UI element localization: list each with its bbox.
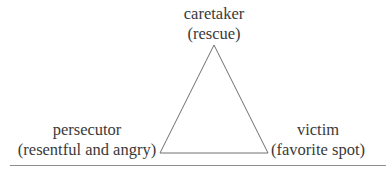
node-caretaker: caretaker (rescue) (154, 4, 274, 44)
node-persecutor-sublabel: (resentful and angry) (7, 140, 167, 160)
node-victim: victim (favorite spot) (266, 120, 370, 160)
node-victim-sublabel: (favorite spot) (266, 140, 370, 160)
node-caretaker-label: caretaker (154, 4, 274, 24)
triangle-outline (160, 45, 268, 153)
drama-triangle-diagram: caretaker (rescue) persecutor (resentful… (0, 0, 386, 174)
horizontal-rule-divider (10, 165, 386, 166)
node-persecutor: persecutor (resentful and angry) (7, 120, 167, 160)
node-persecutor-label: persecutor (7, 120, 167, 140)
node-caretaker-sublabel: (rescue) (154, 24, 274, 44)
node-victim-label: victim (266, 120, 370, 140)
